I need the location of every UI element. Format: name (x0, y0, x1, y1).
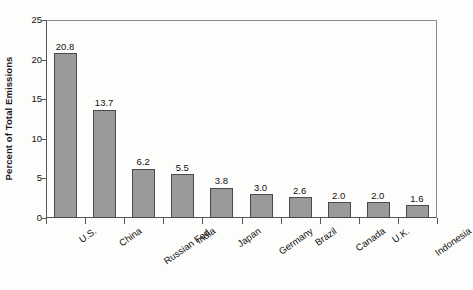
y-axis-tick-label: 10 (18, 134, 42, 144)
bar-group: 3.8 (202, 20, 241, 218)
x-axis-tick-label-text: U.K. (390, 226, 411, 245)
bar-group: 2.0 (359, 20, 398, 218)
y-axis-tick-label: 0 (18, 213, 42, 223)
bar (367, 202, 390, 218)
bar (210, 188, 233, 218)
bar (289, 197, 312, 218)
bar-value-label: 6.2 (121, 157, 165, 167)
x-axis-tick-mark (437, 218, 438, 224)
bar (171, 174, 194, 218)
bars-layer: 20.813.76.25.53.83.02.62.02.01.6 (46, 20, 437, 218)
x-axis-tick-mark (85, 218, 86, 224)
x-axis-tick-mark (281, 218, 282, 224)
bar (406, 205, 429, 218)
bar-group: 20.8 (46, 20, 85, 218)
bar (250, 194, 273, 218)
y-axis-tick-label: 15 (18, 94, 42, 104)
bar-value-label: 1.6 (395, 194, 439, 204)
x-axis-tick-mark (320, 218, 321, 224)
x-axis-labels: U.S.ChinaRussian Fed.IndiaJapanGermanyBr… (46, 226, 437, 288)
x-axis-tick-label-text: India (195, 226, 218, 246)
bar-group: 6.2 (124, 20, 163, 218)
bar-group: 2.0 (320, 20, 359, 218)
bar-group: 5.5 (163, 20, 202, 218)
bar-value-label: 20.8 (43, 42, 87, 52)
x-axis-tick-label-text: Canada (354, 226, 387, 254)
bar-value-label: 13.7 (82, 98, 126, 108)
y-axis-tick-label: 5 (18, 174, 42, 184)
bar-value-label: 2.0 (356, 191, 400, 201)
x-axis-tick-mark (124, 218, 125, 224)
x-axis-tick-label-text: China (118, 226, 144, 249)
x-axis-tick-label-text: Japan (235, 226, 262, 249)
y-axis-tick-label: 20 (18, 55, 42, 65)
bar-value-label: 5.5 (160, 163, 204, 173)
bar (132, 169, 155, 218)
x-axis-tick-mark (398, 218, 399, 224)
y-axis-title: Percent of Total Emissions (0, 18, 18, 218)
bar-group: 1.6 (398, 20, 437, 218)
bar-value-label: 3.8 (199, 176, 243, 186)
x-axis-tick-label-text: Indonesia (433, 226, 473, 258)
bar-value-label: 3.0 (239, 183, 283, 193)
bar (54, 53, 77, 218)
bar-group: 13.7 (85, 20, 124, 218)
x-axis-tick-mark (242, 218, 243, 224)
x-axis-tick-mark (46, 218, 47, 224)
x-axis-tick-label-text: Germany (277, 226, 315, 257)
bar-group: 2.6 (281, 20, 320, 218)
bar-value-label: 2.6 (278, 186, 322, 196)
bar-group: 3.0 (242, 20, 281, 218)
x-axis-tick-mark (202, 218, 203, 224)
y-axis-title-text: Percent of Total Emissions (4, 56, 15, 180)
x-axis-tick-mark (163, 218, 164, 224)
x-axis-ticks (46, 218, 437, 225)
bar (328, 202, 351, 218)
x-axis-tick-label-text: Brazil (313, 226, 338, 248)
x-axis-tick-mark (359, 218, 360, 224)
y-axis-tick-label: 25 (18, 15, 42, 25)
x-axis-tick-label-text: U.S. (77, 226, 98, 245)
bar (93, 110, 116, 219)
bar-value-label: 2.0 (317, 191, 361, 201)
